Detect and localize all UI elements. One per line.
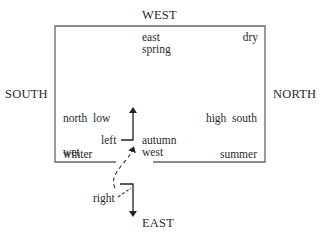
- quadrant-top-right: dry: [238, 31, 258, 43]
- left-turn-arrow: [121, 110, 133, 140]
- quadrant-mid-left: north low winter: [63, 88, 110, 172]
- quadrant-mid-right: high south summer: [195, 88, 257, 172]
- compass-north-label: NORTH: [273, 88, 316, 100]
- right-dashed-tail: [118, 188, 131, 197]
- label-north-low: north low: [63, 112, 110, 124]
- label-high-south: high south: [195, 112, 257, 124]
- arrow-label-right: right: [93, 192, 115, 204]
- label-summer: summer: [195, 148, 257, 160]
- quadrant-top-center: east spring: [142, 31, 171, 55]
- arrow-label-left: left: [101, 134, 116, 146]
- label-dry: dry: [238, 31, 258, 43]
- compass-east-label: EAST: [142, 217, 174, 229]
- quadrant-bottom-center: autumn west: [142, 134, 177, 158]
- label-east: east: [142, 31, 171, 43]
- label-autumn: autumn: [142, 134, 177, 146]
- dashed-path: [113, 149, 133, 188]
- compass-south-label: SOUTH: [5, 88, 48, 100]
- label-spring: spring: [142, 43, 171, 55]
- label-wet: wet: [63, 146, 80, 158]
- label-west: west: [142, 146, 177, 158]
- quadrant-bottom-left: wet: [63, 146, 80, 158]
- compass-west-label: WEST: [142, 9, 177, 21]
